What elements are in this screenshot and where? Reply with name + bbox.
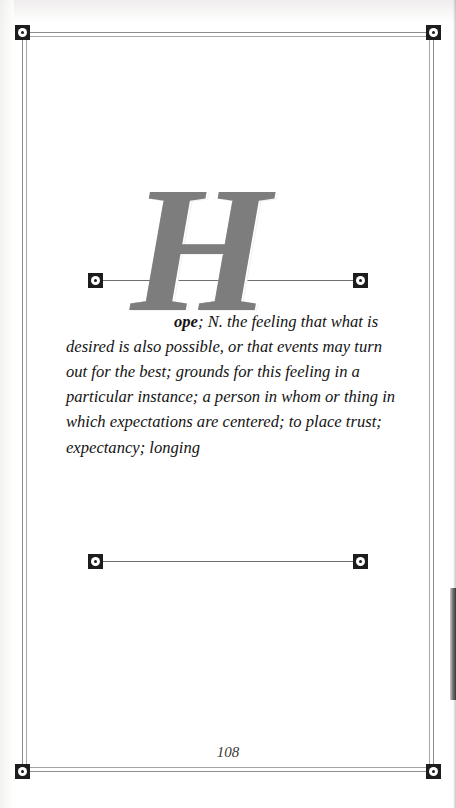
marker-dot <box>432 770 436 774</box>
corner-marker-top-left-icon <box>15 25 30 40</box>
marker-ring <box>18 28 27 37</box>
rule-marker-left-icon <box>88 554 103 569</box>
marker-ring <box>18 767 27 776</box>
marker-ring <box>91 276 100 285</box>
rule-marker-left-icon <box>88 273 103 288</box>
corner-marker-bottom-right-icon <box>426 764 441 779</box>
rule-marker-right-icon <box>353 273 368 288</box>
marker-ring <box>429 767 438 776</box>
marker-dot <box>94 560 98 564</box>
marker-dot <box>432 31 436 35</box>
scan-edge-tint-left <box>0 0 14 808</box>
rule-marker-right-icon <box>353 554 368 569</box>
marker-ring <box>356 276 365 285</box>
lower-ornamental-rule <box>88 554 368 569</box>
scan-edge-tint-top <box>0 0 456 22</box>
marker-dot <box>359 279 363 283</box>
marker-ring <box>356 557 365 566</box>
marker-dot <box>21 770 25 774</box>
scan-edge-shadow-right <box>450 588 456 700</box>
dictionary-page: H ope; N. the feeling that what is desir… <box>0 0 456 808</box>
rule-line <box>102 561 354 562</box>
page-number: 108 <box>0 744 456 761</box>
marker-ring <box>429 28 438 37</box>
marker-dot <box>94 279 98 283</box>
corner-marker-bottom-left-icon <box>15 764 30 779</box>
marker-dot <box>359 560 363 564</box>
corner-marker-top-right-icon <box>426 25 441 40</box>
marker-ring <box>91 557 100 566</box>
marker-dot <box>21 31 25 35</box>
dropcap-letter: H <box>131 160 271 340</box>
